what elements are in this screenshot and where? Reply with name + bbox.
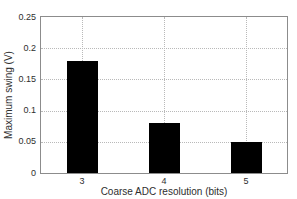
bar-4 xyxy=(149,123,180,173)
plot-area xyxy=(40,16,288,174)
y-tick-label: 0.15 xyxy=(0,74,36,85)
y-tick-label: 0.05 xyxy=(0,136,36,147)
y-axis-title: Maximum swing (V) xyxy=(3,51,15,139)
y-tick-label: 0.25 xyxy=(0,12,36,23)
x-axis-title: Coarse ADC resolution (bits) xyxy=(40,186,288,198)
bar-5 xyxy=(231,142,262,173)
y-tick-label: 0.1 xyxy=(0,105,36,116)
y-tick-label: 0.2 xyxy=(0,43,36,54)
bar-chart-figure: Maximum swing (V) 00.050.10.150.20.25 34… xyxy=(0,0,297,199)
y-tick-label: 0 xyxy=(0,168,36,179)
bar-3 xyxy=(67,61,98,173)
